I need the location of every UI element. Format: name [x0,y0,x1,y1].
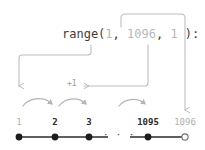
tick-label-3: 3 [86,118,91,127]
range-start-literal: 1 [105,27,112,41]
element-dot-2 [52,134,59,141]
increment-arc-2-to-3 [59,99,85,106]
range-separator-1: , [113,27,127,41]
element-dot-1095 [145,134,152,141]
diagram-canvas: range(1, 1096, 1 ): +1 1 2 3 1095 1096 ·… [0,0,205,150]
range-stop-literal: 1096 [127,27,156,41]
increment-arc-to-1095 [119,99,144,106]
range-call-expression: range(1, 1096, 1 ): [62,28,199,40]
step-increment-label: +1 [67,80,77,88]
diagram-vector-layer [0,0,205,150]
range-keyword: range( [62,27,105,41]
range-step-literal: 1 [170,27,177,41]
tick-label-1: 1 [16,118,21,127]
element-dot-1 [16,134,23,141]
element-dot-1096-excluded [182,134,188,140]
tick-label-2: 2 [52,118,57,127]
tick-label-1096: 1096 [174,118,196,127]
range-closing-paren: ): [178,27,200,41]
number-line-ellipsis: · · · [103,131,135,140]
connector-step-to-plus-one [84,45,148,86]
tick-label-1095: 1095 [137,118,159,127]
range-separator-2: , [156,27,170,41]
element-dot-3 [86,134,93,141]
increment-arc-1-to-2 [23,99,51,106]
connector-start-to-first-element [19,45,91,86]
